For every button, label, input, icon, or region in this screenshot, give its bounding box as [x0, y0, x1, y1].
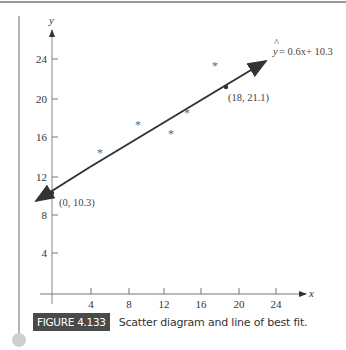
- x-tick-label: 8: [126, 298, 132, 310]
- x-tick-label: 12: [159, 298, 170, 310]
- x-tick-label: 20: [234, 298, 246, 310]
- x-axis: x 4 8 12 16 20 24: [40, 287, 314, 310]
- equation-label: ^ y = 0.6x+ 10.3: [272, 37, 333, 57]
- data-point: *: [212, 59, 218, 73]
- x-tick-label: 16: [196, 298, 208, 310]
- x-axis-label: x: [308, 287, 314, 299]
- y-tick-label: 20: [36, 93, 48, 105]
- mean-point-annotation: (18, 21.1): [228, 92, 270, 104]
- figure-caption-text: Scatter diagram and line of best fit.: [119, 316, 308, 329]
- data-points: * * * * *: [97, 59, 218, 160]
- svg-text:= 0.6x+ 10.3: = 0.6x+ 10.3: [279, 46, 333, 57]
- scatter-plot: y 24 20 16 12 8 4 x 4 8 12: [0, 0, 346, 350]
- y-axis: y 24 20 16 12 8 4: [36, 14, 58, 304]
- data-point: *: [97, 146, 103, 160]
- figure-caption: FIGURE 4.133 Scatter diagram and line of…: [33, 313, 307, 331]
- y-axis-label: y: [48, 14, 54, 26]
- svg-text:y: y: [272, 46, 278, 57]
- intercept-annotation: (0, 10.3): [59, 197, 95, 209]
- data-point: *: [184, 106, 190, 120]
- y-tick-label: 12: [36, 171, 47, 183]
- data-point: *: [168, 127, 174, 141]
- figure-number-badge: FIGURE 4.133: [33, 313, 110, 331]
- x-tick-label: 4: [88, 298, 94, 310]
- y-tick-label: 4: [42, 247, 48, 259]
- y-ticks: 24 20 16 12 8 4: [36, 53, 58, 259]
- y-tick-label: 8: [42, 209, 48, 221]
- intercept-point: [50, 191, 54, 195]
- x-ticks: 4 8 12 16 20 24: [88, 288, 282, 310]
- y-tick-label: 16: [36, 131, 48, 143]
- y-tick-label: 24: [36, 53, 48, 65]
- x-tick-label: 24: [271, 298, 283, 310]
- mean-point: [224, 85, 228, 89]
- best-fit-line: [36, 61, 266, 201]
- data-point: *: [135, 118, 141, 132]
